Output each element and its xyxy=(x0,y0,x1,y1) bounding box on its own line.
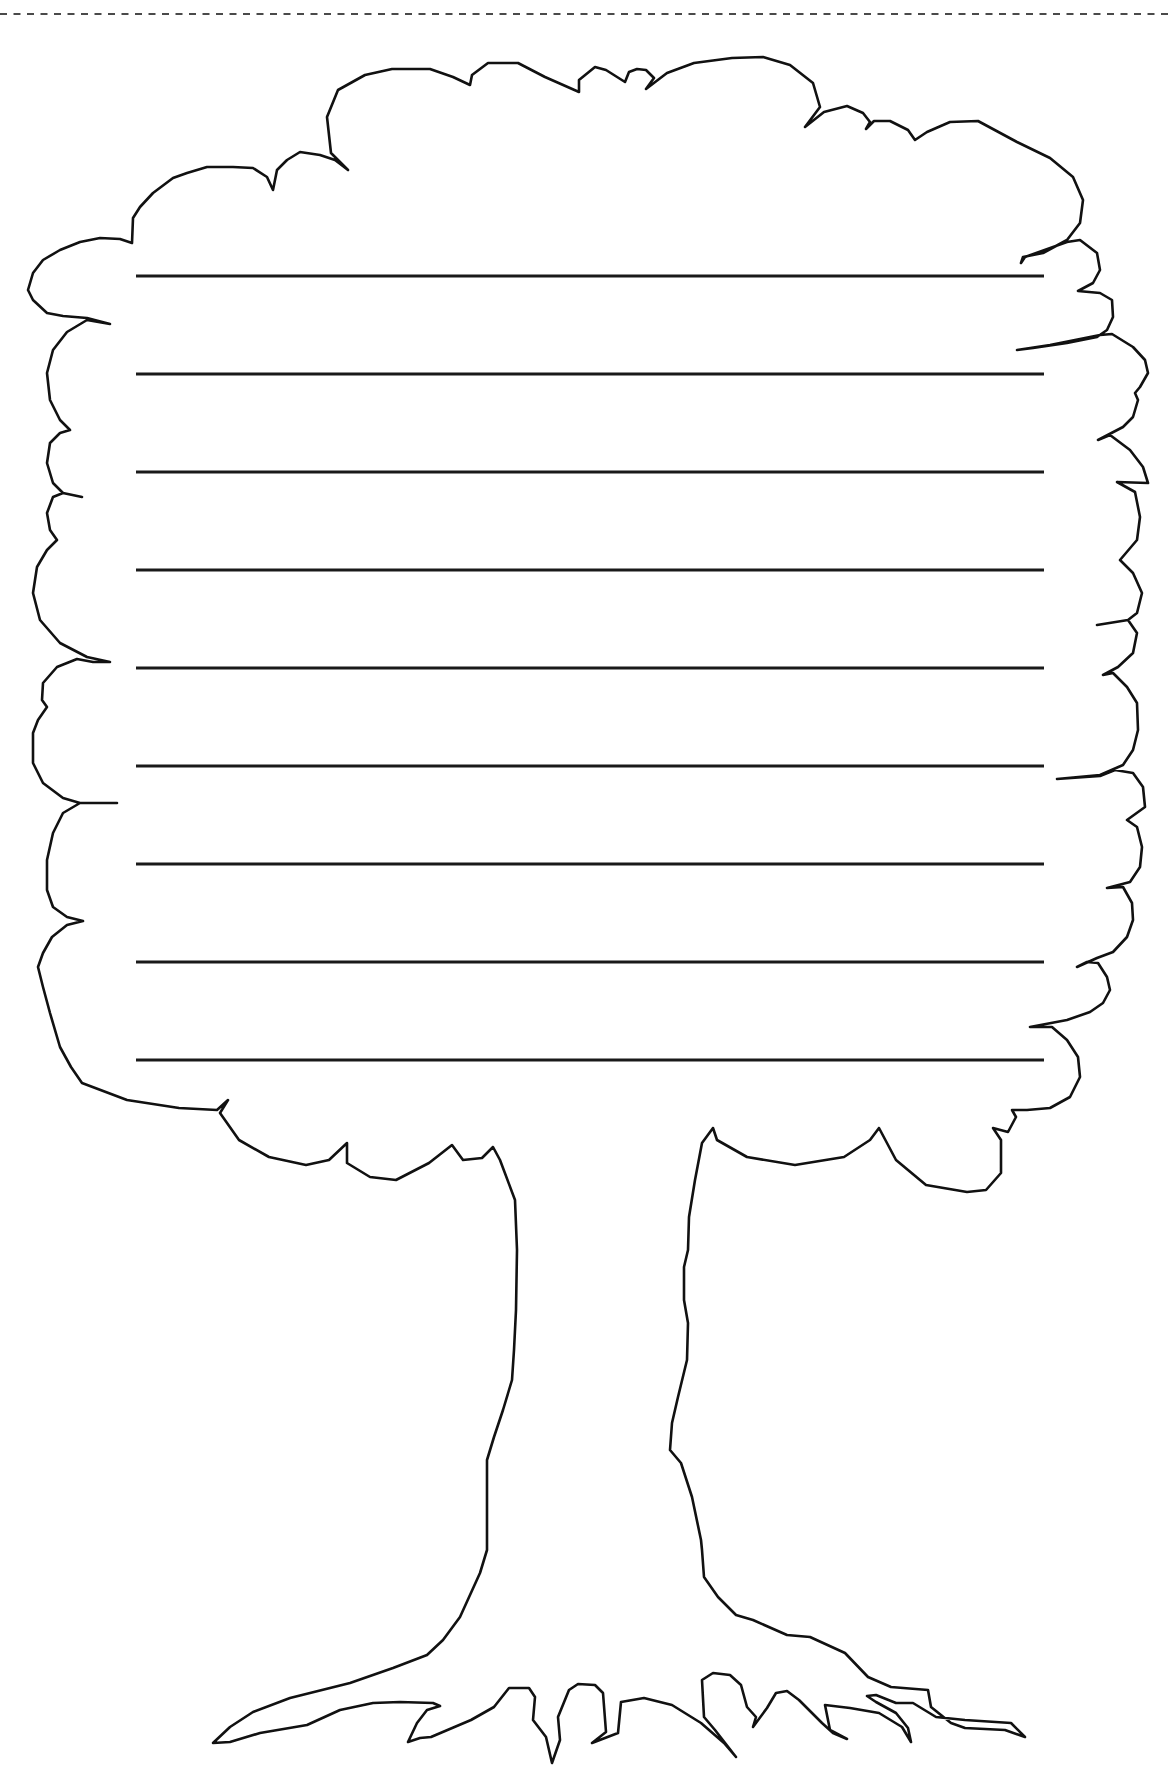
tree-writing-template xyxy=(0,0,1171,1772)
tree-outline-icon xyxy=(28,57,1148,1763)
worksheet-page xyxy=(0,0,1171,1772)
